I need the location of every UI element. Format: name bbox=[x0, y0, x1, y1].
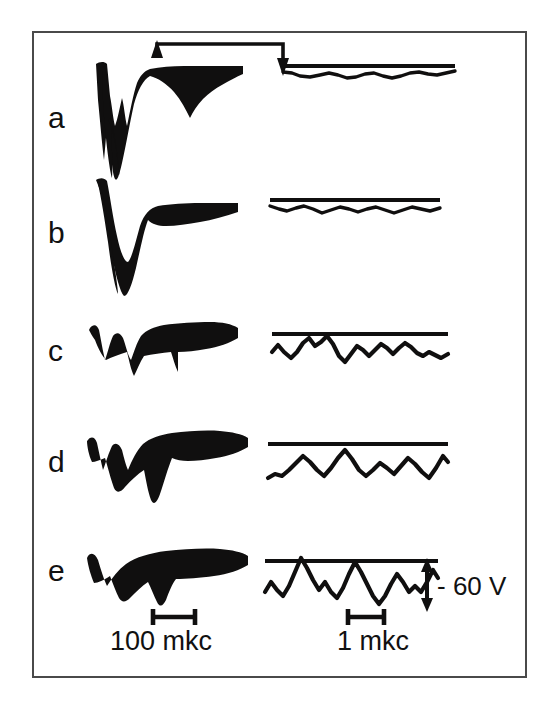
row-label-c: c bbox=[48, 336, 63, 366]
voltage-annotation-label: - 60 V bbox=[437, 573, 506, 599]
row-label-a: a bbox=[48, 103, 65, 133]
left-scalebar-label: 100 mkc bbox=[110, 628, 212, 655]
row-label-b: b bbox=[48, 218, 65, 248]
right-scalebar-label: 1 mkc bbox=[337, 628, 409, 655]
row-label-e: e bbox=[48, 556, 65, 586]
row-label-d: d bbox=[48, 447, 65, 477]
figure-root: a b c d e 100 mkc 1 mkc - 60 V bbox=[0, 0, 551, 706]
